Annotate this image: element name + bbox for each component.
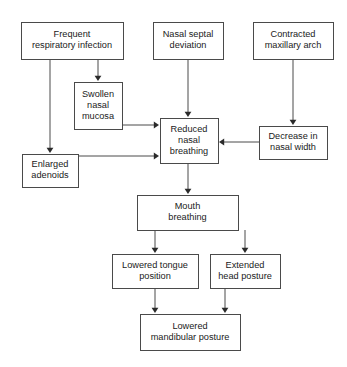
edge-swollen-to-reduced: [122, 122, 159, 129]
node-label-line: Nasal septal: [163, 29, 214, 39]
node-label-line: Reduced: [171, 124, 208, 134]
node-lowered-tongue-position: Lowered tongueposition: [113, 255, 199, 289]
node-label-line: head posture: [218, 271, 272, 281]
node-label-line: Enlarged: [32, 159, 69, 169]
edge-decrease-to-reduced: [219, 139, 259, 146]
arrow-head-icon: [47, 148, 54, 153]
edge-septal-to-reduced: [185, 59, 192, 117]
node-label-line: Lowered: [172, 321, 207, 331]
node-enlarged-adenoids: Enlargedadenoids: [23, 155, 79, 188]
node-extended-head-posture: Extendedhead posture: [211, 255, 281, 289]
node-label-line: Swollen: [82, 89, 114, 99]
arrow-head-icon: [242, 248, 249, 253]
node-label-line: maxillary arch: [265, 40, 322, 50]
node-label-line: respiratory infection: [32, 40, 112, 50]
arrow-head-icon: [219, 139, 224, 146]
flowchart-canvas: Frequentrespiratory infectionNasal septa…: [0, 0, 347, 367]
node-label-line: Mouth: [175, 201, 201, 211]
flowchart-diagram: Frequentrespiratory infectionNasal septa…: [0, 0, 347, 367]
node-label-line: adenoids: [31, 170, 69, 180]
edge-reduced-to-mouth: [185, 163, 192, 194]
node-mouth-breathing: Mouthbreathing: [138, 196, 239, 231]
arrow-head-icon: [152, 248, 159, 253]
edge-adenoids-to-reduced: [78, 153, 159, 160]
node-label-line: deviation: [170, 40, 207, 50]
arrow-head-icon: [222, 308, 229, 313]
node-label-line: nasal width: [270, 142, 316, 152]
node-label-line: Contracted: [271, 29, 316, 39]
edge-head-to-mandibular: [222, 288, 229, 313]
node-label-line: nasal: [178, 135, 200, 145]
arrow-head-icon: [185, 189, 192, 194]
arrow-head-icon: [154, 153, 159, 160]
edge-fri-to-swollen: [95, 59, 102, 81]
node-label-line: mandibular posture: [151, 332, 230, 342]
arrow-head-icon: [95, 76, 102, 81]
edge-mouth-to-head: [242, 230, 249, 253]
node-contracted-maxillary-arch: Contractedmaxillary arch: [254, 23, 334, 60]
node-label-line: Lowered tongue: [122, 260, 188, 270]
node-label-line: breathing: [170, 146, 208, 156]
arrow-head-icon: [154, 122, 159, 129]
nodes-layer: Frequentrespiratory infectionNasal septa…: [22, 23, 334, 351]
arrow-head-icon: [290, 120, 297, 125]
node-label-line: Frequent: [54, 29, 91, 39]
node-label-line: nasal: [87, 100, 109, 110]
node-label-line: position: [139, 271, 171, 281]
node-lowered-mandibular-posture: Loweredmandibular posture: [141, 315, 241, 351]
node-label-line: Extended: [226, 260, 265, 270]
edge-fri-to-adenoids: [47, 59, 54, 153]
edge-tongue-to-mandibular: [152, 288, 159, 313]
edge-mouth-to-tongue: [152, 230, 159, 253]
arrow-head-icon: [185, 112, 192, 117]
node-frequent-respiratory-infection: Frequentrespiratory infection: [22, 23, 124, 60]
node-reduced-nasal-breathing: Reducednasalbreathing: [161, 119, 219, 164]
node-swollen-nasal-mucosa: Swollennasalmucosa: [75, 83, 123, 130]
node-label-line: Decrease in: [268, 131, 317, 141]
node-label-line: breathing: [168, 212, 206, 222]
node-nasal-septal-deviation: Nasal septaldeviation: [154, 23, 224, 60]
node-decrease-in-nasal-width: Decrease innasal width: [260, 127, 328, 160]
arrow-head-icon: [152, 308, 159, 313]
node-label-line: mucosa: [82, 111, 115, 121]
edge-maxillary-to-decrease: [290, 59, 297, 125]
